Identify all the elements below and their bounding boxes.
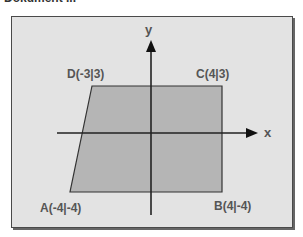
x-axis-label: x: [264, 125, 272, 140]
y-axis-label: y: [145, 22, 153, 37]
coordinate-diagram: y x D(-3|3) C(4|3) A(-4|-4) B(4|-4): [0, 0, 303, 237]
x-axis-arrow-icon: [246, 128, 258, 138]
y-axis-arrow-icon: [146, 40, 156, 52]
point-d-label: D(-3|3): [67, 67, 104, 81]
trapezoid-abcd: [70, 86, 222, 192]
point-b-label: B(4|-4): [214, 199, 251, 213]
point-c-label: C(4|3): [196, 67, 229, 81]
point-a-label: A(-4|-4): [40, 201, 81, 215]
